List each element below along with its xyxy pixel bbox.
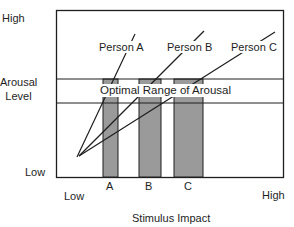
bar-a-label: A: [106, 180, 113, 192]
person-c-label: Person C: [230, 41, 278, 53]
y-axis-title-line1: Arousal: [0, 76, 37, 88]
bar-b-label: B: [145, 180, 152, 192]
x-axis-title: Stimulus Impact: [132, 212, 210, 224]
y-axis-low-label: Low: [25, 166, 45, 178]
optimal-range-label: Optimal Range of Arousal: [98, 84, 233, 97]
x-axis-high-label: High: [262, 189, 285, 201]
y-axis-title-line2: Level: [0, 90, 37, 102]
bar-c-label: C: [184, 180, 192, 192]
person-a-label: Person A: [98, 41, 145, 53]
y-axis-high-label: High: [2, 12, 25, 24]
person-b-label: Person B: [166, 41, 213, 53]
x-axis-low-label: Low: [64, 190, 84, 202]
arousal-diagram: [0, 0, 294, 227]
